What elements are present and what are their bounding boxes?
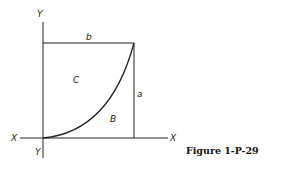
diagram: Y Y X X b a C B	[0, 0, 285, 169]
region-label-c: C	[73, 75, 80, 85]
y-axis-label-bottom: Y	[35, 147, 42, 157]
parabolic-curve	[43, 43, 134, 138]
figure-caption: Figure 1-P-29	[186, 145, 259, 156]
y-axis-label-top: Y	[37, 9, 44, 19]
dimension-label-a: a	[137, 89, 143, 99]
x-axis-label-right: X	[169, 133, 177, 143]
x-axis-label-left: X	[10, 133, 18, 143]
dimension-label-b: b	[86, 32, 92, 42]
region-label-b: B	[110, 114, 116, 124]
